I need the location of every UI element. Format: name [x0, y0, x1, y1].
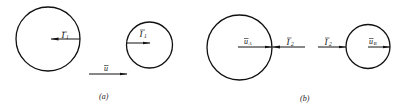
label-I1-small-sub: 1 [144, 33, 147, 39]
impulse-diagram: I 1 I 1 u (a) u A I 2 I 2 u [0, 0, 407, 112]
label-uB: u [369, 37, 373, 46]
small-sphere-a [127, 22, 173, 68]
label-I2-left: I [286, 37, 291, 47]
label-uA-sub: A [248, 41, 253, 46]
label-I2-right-sub: 2 [329, 41, 332, 47]
label-u: u [104, 64, 108, 73]
label-I2-left-sub: 2 [291, 41, 294, 47]
panel-a: I 1 I 1 u (a) [16, 7, 173, 101]
label-I1-small: I [139, 29, 144, 39]
label-uB-sub: B [374, 41, 377, 46]
label-I2-right: I [324, 37, 329, 47]
label-uA: u [244, 37, 248, 46]
caption-a: (a) [99, 92, 109, 101]
caption-b: (b) [300, 94, 310, 103]
panel-b: u A I 2 I 2 u B (b) [207, 15, 390, 103]
label-I1-large-sub: 1 [66, 34, 69, 40]
